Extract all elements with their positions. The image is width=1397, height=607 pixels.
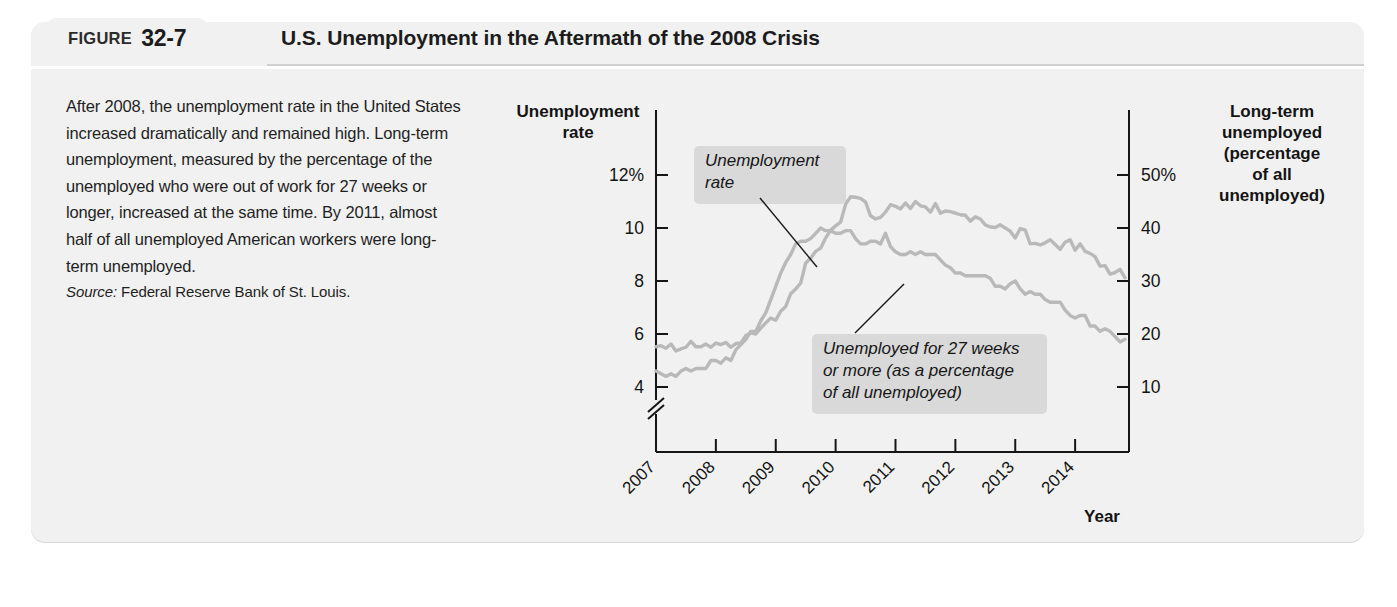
title-underline bbox=[267, 64, 1364, 66]
source-value: Federal Reserve Bank of St. Louis. bbox=[121, 283, 350, 300]
source-label: Source: bbox=[66, 283, 117, 300]
caption-body: After 2008, the unemployment rate in the… bbox=[66, 93, 466, 279]
figure-number: 32-7 bbox=[141, 25, 186, 52]
figure-caption: After 2008, the unemployment rate in the… bbox=[66, 93, 466, 300]
figure-title: U.S. Unemployment in the Aftermath of th… bbox=[281, 26, 820, 50]
figure-number-tab: FIGURE 32-7 bbox=[46, 18, 208, 58]
figure-label: FIGURE bbox=[68, 29, 132, 48]
title-divider bbox=[31, 66, 1364, 69]
caption-source: Source: Federal Reserve Bank of St. Loui… bbox=[66, 283, 466, 300]
